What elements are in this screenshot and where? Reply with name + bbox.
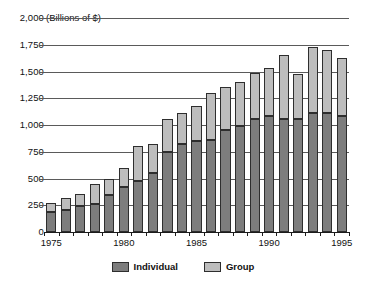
x-tick-mark-0 xyxy=(44,232,45,236)
bar-segment-group-1995[interactable] xyxy=(337,58,347,116)
bar-1984[interactable] xyxy=(177,113,187,232)
legend-item-individual[interactable]: Individual xyxy=(112,262,178,272)
x-tick-mark-21 xyxy=(349,232,350,236)
x-tick-mark-18 xyxy=(305,232,306,236)
bar-1979[interactable] xyxy=(104,179,114,232)
bar-segment-group-1989[interactable] xyxy=(250,73,260,119)
bar-segment-individual-1984[interactable] xyxy=(177,144,187,232)
x-tick-mark-1 xyxy=(59,232,60,236)
bar-segment-group-1981[interactable] xyxy=(133,146,143,180)
x-tick-mark-10 xyxy=(189,232,190,236)
bar-segment-individual-1992[interactable] xyxy=(293,119,303,232)
bar-segment-group-1990[interactable] xyxy=(264,68,274,116)
bar-1978[interactable] xyxy=(90,184,100,232)
bar-1981[interactable] xyxy=(133,146,143,232)
bar-segment-group-1980[interactable] xyxy=(119,168,129,187)
x-tick-mark-12 xyxy=(218,232,219,236)
bar-segment-individual-1981[interactable] xyxy=(133,181,143,232)
bar-segment-individual-1989[interactable] xyxy=(250,119,260,232)
bar-segment-individual-1979[interactable] xyxy=(104,195,114,232)
bar-segment-individual-1980[interactable] xyxy=(119,187,129,232)
y-tick-label-750: 750 xyxy=(0,147,44,157)
x-tick-mark-17 xyxy=(291,232,292,236)
bar-segment-group-1986[interactable] xyxy=(206,93,216,140)
bar-segment-group-1985[interactable] xyxy=(191,106,201,141)
bar-segment-group-1979[interactable] xyxy=(104,179,114,195)
bar-segment-individual-1987[interactable] xyxy=(220,130,230,232)
bar-segment-individual-1994[interactable] xyxy=(322,113,332,232)
bar-segment-individual-1985[interactable] xyxy=(191,141,201,232)
x-tick-mark-7 xyxy=(146,232,147,236)
bar-segment-individual-1988[interactable] xyxy=(235,126,245,232)
x-tick-mark-15 xyxy=(262,232,263,236)
y-tick-label-0: 0 xyxy=(0,227,44,237)
bar-segment-individual-1991[interactable] xyxy=(279,119,289,232)
y-tick-label-500: 500 xyxy=(0,174,44,184)
y-tick-label-2000: 2,000 xyxy=(0,13,44,23)
x-tick-mark-14 xyxy=(247,232,248,236)
bar-1976[interactable] xyxy=(61,198,71,232)
bar-group xyxy=(44,18,349,232)
y-tick-label-250: 250 xyxy=(0,200,44,210)
bar-segment-individual-1975[interactable] xyxy=(46,212,56,232)
stacked-bar-chart: (Billions of $) 02505007501,0001,2501,50… xyxy=(0,0,366,289)
bar-segment-group-1978[interactable] xyxy=(90,184,100,203)
legend-swatch-individual xyxy=(112,262,129,272)
legend-swatch-group xyxy=(204,262,221,272)
bar-1990[interactable] xyxy=(264,68,274,232)
x-tick-label-1985: 1985 xyxy=(180,238,214,248)
bar-segment-group-1992[interactable] xyxy=(293,74,303,119)
bar-segment-individual-1995[interactable] xyxy=(337,116,347,232)
legend-item-group[interactable]: Group xyxy=(204,262,255,272)
bar-segment-group-1994[interactable] xyxy=(322,50,332,114)
y-tick-label-1500: 1,500 xyxy=(0,67,44,77)
bar-1980[interactable] xyxy=(119,168,129,232)
x-tick-label-1990: 1990 xyxy=(252,238,286,248)
bar-1989[interactable] xyxy=(250,73,260,232)
bar-segment-group-1975[interactable] xyxy=(46,203,56,212)
x-tick-mark-13 xyxy=(233,232,234,236)
x-tick-mark-11 xyxy=(204,232,205,236)
bar-segment-group-1976[interactable] xyxy=(61,198,71,209)
bar-segment-individual-1978[interactable] xyxy=(90,204,100,232)
bar-segment-individual-1990[interactable] xyxy=(264,116,274,232)
x-tick-label-1995: 1995 xyxy=(325,238,359,248)
chart-legend: IndividualGroup xyxy=(0,262,366,272)
bar-1988[interactable] xyxy=(235,82,245,232)
bar-segment-group-1993[interactable] xyxy=(308,47,318,113)
bar-segment-group-1983[interactable] xyxy=(162,119,172,152)
bar-segment-group-1991[interactable] xyxy=(279,55,289,118)
bar-segment-individual-1986[interactable] xyxy=(206,140,216,232)
y-tick-label-1250: 1,250 xyxy=(0,93,44,103)
y-tick-label-1750: 1,750 xyxy=(0,40,44,50)
bar-1991[interactable] xyxy=(279,55,289,232)
bar-1986[interactable] xyxy=(206,93,216,232)
bar-segment-individual-1976[interactable] xyxy=(61,210,71,232)
bar-1993[interactable] xyxy=(308,47,318,232)
x-tick-mark-6 xyxy=(131,232,132,236)
x-tick-mark-9 xyxy=(175,232,176,236)
x-tick-mark-4 xyxy=(102,232,103,236)
x-tick-mark-2 xyxy=(73,232,74,236)
bar-1992[interactable] xyxy=(293,74,303,232)
bar-1982[interactable] xyxy=(148,144,158,232)
bar-segment-individual-1982[interactable] xyxy=(148,173,158,232)
bar-segment-group-1977[interactable] xyxy=(75,194,85,206)
legend-label-individual: Individual xyxy=(134,262,178,272)
bar-1983[interactable] xyxy=(162,119,172,232)
bar-1985[interactable] xyxy=(191,106,201,232)
bar-segment-group-1988[interactable] xyxy=(235,82,245,125)
legend-label-group: Group xyxy=(226,262,255,272)
bar-segment-individual-1977[interactable] xyxy=(75,206,85,232)
bar-segment-individual-1993[interactable] xyxy=(308,113,318,232)
bar-segment-individual-1983[interactable] xyxy=(162,152,172,232)
bar-1975[interactable] xyxy=(46,203,56,232)
bar-1994[interactable] xyxy=(322,50,332,232)
bar-1977[interactable] xyxy=(75,193,85,232)
bar-1995[interactable] xyxy=(337,58,347,232)
bar-segment-group-1987[interactable] xyxy=(220,87,230,130)
bar-segment-group-1984[interactable] xyxy=(177,113,187,143)
bar-segment-group-1982[interactable] xyxy=(148,144,158,172)
bar-1987[interactable] xyxy=(220,87,230,232)
x-axis: 19751980198519901995 xyxy=(44,232,349,254)
